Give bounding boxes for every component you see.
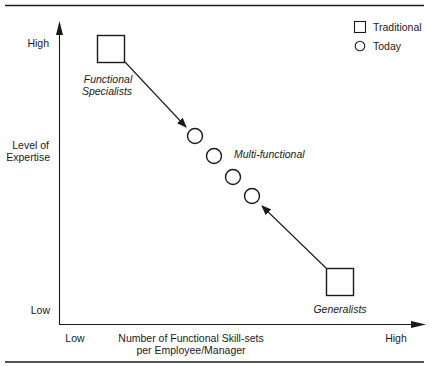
multi-functional-label: Multi-functional [234, 148, 305, 160]
x-axis-title-line1: Number of Functional Skill-sets [118, 332, 263, 344]
y-axis-arrowhead [56, 21, 63, 35]
multi-functional-circle [226, 170, 241, 185]
y-axis-title-line2: Expertise [6, 151, 50, 163]
arrow-generalists-to-multifunctional [262, 206, 326, 268]
x-axis-low-label: Low [65, 332, 85, 344]
x-axis-title-line2: per Employee/Manager [136, 344, 246, 356]
y-axis-low-label: Low [31, 304, 51, 316]
expertise-diagram: High Level of Expertise Low Low Number o… [0, 0, 432, 366]
y-axis-title-line1: Level of [12, 139, 49, 151]
legend-square-icon [355, 22, 366, 33]
specialists-label-line2: Specialists [82, 85, 133, 97]
multi-functional-circle [188, 129, 203, 144]
multi-functional-circle [245, 189, 260, 204]
specialists-label-line1: Functional [84, 73, 133, 85]
x-axis-arrowhead [411, 321, 426, 328]
generalists-label: Generalists [313, 303, 367, 315]
legend: Traditional Today [355, 21, 422, 52]
arrow-specialists-to-multifunctional [125, 62, 186, 127]
legend-label-traditional: Traditional [373, 21, 422, 33]
x-axis-high-label: High [385, 332, 407, 344]
specialists-square [98, 36, 125, 63]
legend-label-today: Today [373, 40, 402, 52]
legend-circle-icon [355, 41, 365, 51]
generalists-square [327, 269, 354, 296]
multi-functional-circle [207, 149, 222, 164]
y-axis-high-label: High [27, 37, 49, 49]
